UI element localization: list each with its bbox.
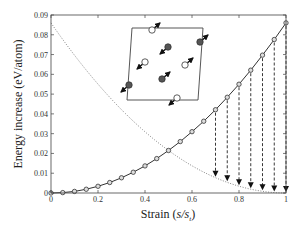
y-tick-label: 0 <box>44 189 48 198</box>
data-point-marker <box>166 148 170 152</box>
filled-atom <box>197 39 203 45</box>
y-tick-label: 0.04 <box>34 110 48 119</box>
y-axis-title: Energy increase (eV/atom) <box>11 39 25 168</box>
y-tick-label: 0.07 <box>34 51 48 60</box>
arrowhead-icon <box>224 175 230 181</box>
y-tick-label: 0.02 <box>34 149 48 158</box>
arrowhead-icon <box>248 182 254 188</box>
x-tick-label: 0 <box>49 195 53 204</box>
x-tick-label: 0.8 <box>234 195 244 204</box>
data-point-marker <box>84 187 88 191</box>
data-point-marker <box>155 156 159 160</box>
data-point-marker <box>96 184 100 188</box>
data-point-marker <box>237 82 241 86</box>
data-point-marker <box>178 139 182 143</box>
filled-atom <box>126 82 132 88</box>
data-point-marker <box>213 108 217 112</box>
x-tick-label: 0.6 <box>187 195 197 204</box>
y-tick-label: 0.03 <box>34 130 48 139</box>
arrowhead-icon <box>213 171 219 177</box>
y-tick-label: 0.06 <box>34 70 48 79</box>
open-atom <box>174 95 180 101</box>
data-point-marker <box>272 37 276 41</box>
y-tick-label: 0.08 <box>34 31 48 40</box>
y-tick-label: 0.05 <box>34 90 48 99</box>
filled-atom <box>165 44 171 50</box>
x-tick-label: 0.4 <box>140 195 150 204</box>
energy-strain-chart: 00.20.40.60.8100.010.020.030.040.050.060… <box>0 0 302 227</box>
open-atom <box>142 59 148 65</box>
y-tick-label: 0.01 <box>34 169 48 178</box>
x-tick-label: 1 <box>284 195 288 204</box>
data-point-marker <box>260 53 264 57</box>
data-point-marker <box>143 164 147 168</box>
data-point-marker <box>190 129 194 133</box>
data-point-marker <box>131 170 135 174</box>
x-axis-title: Strain (s/st) <box>141 207 195 223</box>
arrowhead-icon <box>271 186 277 192</box>
data-point-marker <box>119 176 123 180</box>
filled-atom <box>159 76 165 82</box>
x-tick-label: 0.2 <box>93 195 103 204</box>
open-atom <box>149 27 155 33</box>
data-point-marker <box>249 68 253 72</box>
atomic-cell-inset <box>121 23 208 105</box>
data-point-marker <box>225 95 229 99</box>
data-point-marker <box>202 119 206 123</box>
unit-cell-outline <box>127 28 203 100</box>
data-point-marker <box>108 180 112 184</box>
open-atom <box>182 62 188 68</box>
arrowhead-icon <box>260 184 266 190</box>
arrowhead-icon <box>236 179 242 185</box>
y-tick-label: 0.09 <box>34 11 48 20</box>
